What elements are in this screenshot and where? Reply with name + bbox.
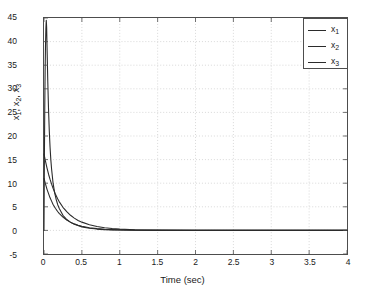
legend-label: x3: [331, 57, 339, 68]
y-axis-title-base: x: [10, 88, 21, 93]
y-tick-label: -5: [0, 251, 17, 260]
legend-label: x1: [331, 25, 339, 36]
y-axis-title-separator: ,: [10, 92, 21, 97]
y-axis-title-subscript: 1: [15, 112, 22, 116]
figure-canvas: -5051015202530354045 00.511.522.533.54 x…: [0, 0, 365, 297]
x-tick-label: 2: [176, 258, 216, 267]
legend-item-x1[interactable]: x1: [304, 22, 347, 38]
y-tick-label: 0: [0, 227, 17, 236]
y-axis-title: x1, x2, x3: [10, 62, 22, 142]
legend-line-swatch: [308, 46, 326, 47]
x-tick-label: 1.5: [137, 258, 177, 267]
y-axis-title-base: x: [10, 102, 21, 107]
x-tick-label: 4: [328, 258, 365, 267]
legend-label: x2: [331, 41, 339, 52]
y-tick-label: 45: [0, 13, 17, 22]
x-tick-label: 2.5: [214, 258, 254, 267]
y-tick-label: 40: [0, 37, 17, 46]
y-axis-title-separator: ,: [10, 106, 21, 111]
x-tick-label: 3: [252, 258, 292, 267]
legend-item-x3[interactable]: x3: [304, 54, 347, 70]
y-tick-label: 15: [0, 156, 17, 165]
x-tick-label: 3.5: [290, 258, 330, 267]
legend[interactable]: x1x2x3: [303, 18, 348, 69]
y-axis-title-subscript: 2: [15, 98, 22, 102]
legend-line-swatch: [308, 30, 326, 31]
x-tick-label: 0.5: [61, 258, 101, 267]
x-axis-title: Time (sec): [0, 274, 365, 285]
y-axis-title-subscript: 3: [15, 84, 22, 88]
legend-line-swatch: [308, 62, 326, 63]
x-tick-label: 0: [23, 258, 63, 267]
y-tick-label: 5: [0, 203, 17, 212]
legend-item-x2[interactable]: x2: [304, 38, 347, 54]
tick-marks: [44, 18, 347, 254]
x-tick-label: 1: [99, 258, 139, 267]
y-tick-label: 10: [0, 180, 17, 189]
y-axis-title-base: x: [10, 116, 21, 121]
